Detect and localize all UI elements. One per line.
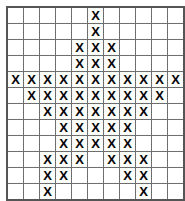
- grid-cell-empty[interactable]: [168, 24, 185, 40]
- grid-cell-empty[interactable]: [40, 24, 56, 40]
- grid-cell-empty[interactable]: [120, 7, 136, 24]
- grid-cell-marked[interactable]: X: [88, 7, 104, 24]
- grid-cell-marked[interactable]: X: [136, 168, 152, 184]
- grid-cell-empty[interactable]: [152, 24, 168, 40]
- grid-cell-marked[interactable]: X: [136, 72, 152, 88]
- grid-cell-empty[interactable]: [40, 136, 56, 152]
- grid-cell-empty[interactable]: [136, 136, 152, 152]
- grid-cell-marked[interactable]: X: [72, 152, 88, 168]
- grid-cell-marked[interactable]: X: [136, 104, 152, 120]
- grid-cell-empty[interactable]: [7, 88, 24, 104]
- grid-cell-empty[interactable]: [7, 40, 24, 56]
- grid-cell-empty[interactable]: [168, 56, 185, 72]
- grid-cell-marked[interactable]: X: [56, 104, 72, 120]
- grid-cell-marked[interactable]: X: [88, 104, 104, 120]
- grid-cell-empty[interactable]: [152, 168, 168, 184]
- grid-cell-marked[interactable]: X: [120, 72, 136, 88]
- grid-cell-marked[interactable]: X: [88, 24, 104, 40]
- grid-cell-empty[interactable]: [168, 7, 185, 24]
- grid-cell-marked[interactable]: X: [56, 136, 72, 152]
- grid-cell-marked[interactable]: X: [88, 136, 104, 152]
- grid-cell-empty[interactable]: [120, 24, 136, 40]
- grid-cell-empty[interactable]: [24, 40, 40, 56]
- grid-cell-empty[interactable]: [40, 7, 56, 24]
- grid-cell-marked[interactable]: X: [152, 72, 168, 88]
- grid-cell-marked[interactable]: X: [104, 136, 120, 152]
- grid-cell-empty[interactable]: [168, 88, 185, 104]
- grid-cell-empty[interactable]: [168, 120, 185, 136]
- grid-cell-empty[interactable]: [152, 152, 168, 168]
- grid-cell-empty[interactable]: [152, 40, 168, 56]
- grid-cell-marked[interactable]: X: [72, 88, 88, 104]
- grid-cell-empty[interactable]: [168, 184, 185, 199]
- grid-cell-empty[interactable]: [136, 7, 152, 24]
- grid-cell-marked[interactable]: X: [104, 88, 120, 104]
- grid-cell-empty[interactable]: [104, 184, 120, 199]
- grid-cell-marked[interactable]: X: [40, 72, 56, 88]
- grid-cell-empty[interactable]: [120, 40, 136, 56]
- grid-cell-empty[interactable]: [104, 168, 120, 184]
- grid-cell-empty[interactable]: [152, 136, 168, 152]
- grid-cell-empty[interactable]: [24, 56, 40, 72]
- grid-cell-empty[interactable]: [88, 168, 104, 184]
- grid-cell-empty[interactable]: [24, 120, 40, 136]
- grid-cell-marked[interactable]: X: [136, 184, 152, 199]
- grid-cell-marked[interactable]: X: [72, 56, 88, 72]
- grid-cell-marked[interactable]: X: [88, 72, 104, 88]
- grid-cell-marked[interactable]: X: [104, 120, 120, 136]
- grid-cell-empty[interactable]: [72, 184, 88, 199]
- grid-cell-empty[interactable]: [40, 40, 56, 56]
- grid-cell-empty[interactable]: [88, 184, 104, 199]
- grid-cell-marked[interactable]: X: [120, 88, 136, 104]
- grid-cell-marked[interactable]: X: [120, 104, 136, 120]
- grid-cell-empty[interactable]: [7, 168, 24, 184]
- grid-cell-empty[interactable]: [72, 7, 88, 24]
- grid-cell-empty[interactable]: [168, 152, 185, 168]
- grid-cell-empty[interactable]: [168, 136, 185, 152]
- grid-cell-empty[interactable]: [104, 7, 120, 24]
- grid-cell-empty[interactable]: [7, 24, 24, 40]
- grid-cell-marked[interactable]: X: [72, 136, 88, 152]
- grid-cell-empty[interactable]: [7, 104, 24, 120]
- grid-cell-marked[interactable]: X: [120, 136, 136, 152]
- grid-cell-marked[interactable]: X: [56, 152, 72, 168]
- grid-cell-marked[interactable]: X: [40, 152, 56, 168]
- grid-cell-empty[interactable]: [136, 40, 152, 56]
- grid-cell-marked[interactable]: X: [72, 120, 88, 136]
- grid-cell-empty[interactable]: [24, 136, 40, 152]
- grid-cell-empty[interactable]: [152, 184, 168, 199]
- grid-cell-empty[interactable]: [40, 56, 56, 72]
- grid-cell-marked[interactable]: X: [56, 88, 72, 104]
- grid-cell-empty[interactable]: [56, 40, 72, 56]
- grid-cell-empty[interactable]: [168, 40, 185, 56]
- grid-cell-empty[interactable]: [152, 120, 168, 136]
- grid-cell-empty[interactable]: [88, 152, 104, 168]
- grid-cell-empty[interactable]: [168, 168, 185, 184]
- grid-cell-empty[interactable]: [24, 152, 40, 168]
- grid-cell-marked[interactable]: X: [136, 152, 152, 168]
- grid-cell-empty[interactable]: [24, 184, 40, 199]
- grid-cell-empty[interactable]: [152, 104, 168, 120]
- grid-cell-empty[interactable]: [168, 104, 185, 120]
- grid-cell-empty[interactable]: [120, 184, 136, 199]
- grid-cell-empty[interactable]: [136, 56, 152, 72]
- grid-cell-empty[interactable]: [152, 7, 168, 24]
- grid-cell-marked[interactable]: X: [7, 72, 24, 88]
- grid-cell-empty[interactable]: [72, 24, 88, 40]
- grid-cell-empty[interactable]: [136, 24, 152, 40]
- grid-cell-empty[interactable]: [7, 152, 24, 168]
- grid-cell-empty[interactable]: [7, 7, 24, 24]
- grid-cell-marked[interactable]: X: [24, 72, 40, 88]
- grid-cell-empty[interactable]: [104, 24, 120, 40]
- grid-cell-marked[interactable]: X: [88, 56, 104, 72]
- grid-cell-empty[interactable]: [7, 136, 24, 152]
- grid-cell-empty[interactable]: [40, 120, 56, 136]
- grid-cell-empty[interactable]: [7, 184, 24, 199]
- grid-cell-marked[interactable]: X: [104, 152, 120, 168]
- grid-cell-empty[interactable]: [24, 7, 40, 24]
- grid-cell-marked[interactable]: X: [104, 56, 120, 72]
- grid-cell-marked[interactable]: X: [40, 168, 56, 184]
- grid-cell-marked[interactable]: X: [24, 88, 40, 104]
- grid-cell-marked[interactable]: X: [136, 88, 152, 104]
- grid-cell-marked[interactable]: X: [152, 88, 168, 104]
